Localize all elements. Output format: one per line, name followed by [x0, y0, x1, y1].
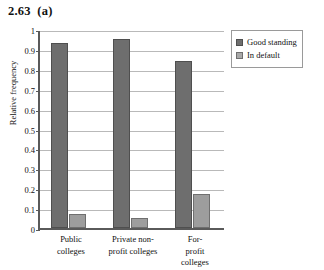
y-tick-label: 0.2 — [24, 185, 35, 195]
y-tick-mark — [36, 170, 40, 171]
legend-label: In default — [247, 50, 280, 60]
gridline — [40, 190, 224, 191]
bar — [131, 218, 148, 228]
y-tick-label: 0.1 — [24, 205, 35, 215]
gridline — [40, 71, 224, 72]
y-tick-mark — [36, 131, 40, 132]
gridline — [40, 51, 224, 52]
x-axis-category-label: Publiccolleges — [57, 234, 85, 257]
gridline — [40, 111, 224, 112]
y-tick-mark — [36, 190, 40, 191]
y-tick-mark — [36, 210, 40, 211]
y-axis-title: Relative frequency — [8, 33, 18, 153]
x-axis-category-label: For-profitcolleges — [181, 234, 210, 269]
legend-swatch-icon — [236, 52, 243, 59]
y-tick-mark — [36, 51, 40, 52]
y-tick-label: 1 — [31, 26, 35, 36]
bar — [113, 39, 130, 228]
y-tick-label: 0.8 — [24, 66, 35, 76]
y-tick-mark — [36, 91, 40, 92]
y-tick-label: 0.9 — [24, 46, 35, 56]
legend-swatch-icon — [236, 39, 243, 46]
y-tick-mark — [36, 71, 40, 72]
bar — [193, 194, 210, 228]
y-tick-label: 0.3 — [24, 165, 35, 175]
chart-page: 2.63 (a) Relative frequency 10.90.80.70.… — [0, 0, 324, 270]
y-tick-label: 0.7 — [24, 86, 35, 96]
chart-legend: Good standingIn default — [231, 30, 303, 68]
bar — [51, 43, 68, 228]
legend-label: Good standing — [247, 37, 297, 47]
x-axis-category-label: Private non-profit colleges — [109, 234, 158, 257]
y-tick-label: 0.5 — [24, 126, 35, 136]
page-title: 2.63 (a) — [8, 4, 53, 19]
y-tick-mark — [36, 230, 40, 231]
y-tick-mark — [36, 111, 40, 112]
legend-item: In default — [236, 50, 297, 60]
bar — [175, 61, 192, 228]
gridline — [40, 131, 224, 132]
y-tick-mark — [36, 150, 40, 151]
gridline — [40, 150, 224, 151]
y-tick-label: 0.6 — [24, 106, 35, 116]
legend-item: Good standing — [236, 37, 297, 47]
gridline — [40, 170, 224, 171]
gridline — [40, 91, 224, 92]
y-tick-label: 0.4 — [24, 145, 35, 155]
plot-area: 10.90.80.70.60.50.40.30.20.10 Publiccoll… — [38, 31, 224, 230]
gridline — [40, 31, 224, 32]
bar — [69, 214, 86, 228]
y-tick-label: 0 — [31, 225, 35, 235]
y-tick-mark — [36, 31, 40, 32]
